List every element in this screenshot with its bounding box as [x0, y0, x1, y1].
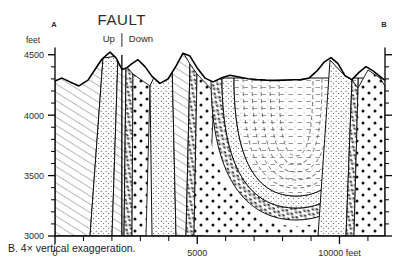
fault-up-label: Up	[103, 33, 115, 44]
cross-section-svg: 3000350040004500 0500010000 feet FAULT U…	[0, 0, 404, 264]
x-axis-tick-label: 10000 feet	[318, 248, 361, 258]
figure-caption: B. 4× vertical exaggeration.	[8, 242, 136, 254]
y-axis-tick-label: 3000	[24, 231, 44, 241]
cross-section-figure: 3000350040004500 0500010000 feet FAULT U…	[0, 0, 404, 264]
unit-conglomerate-left	[124, 66, 133, 236]
fault-label: FAULT	[98, 11, 147, 28]
y-axis-tick-label: 4000	[24, 111, 44, 121]
y-axis-unit-label: feet	[26, 35, 41, 45]
y-axis-tick-label: 3500	[24, 171, 44, 181]
x-axis-tick-label: 5000	[187, 248, 207, 258]
y-axis-tick-label: 4500	[24, 50, 44, 60]
fault-down-label: Down	[129, 33, 153, 44]
endpoint-label-a: A	[51, 20, 57, 29]
unit-gravel-right-flank	[354, 70, 385, 236]
endpoint-label-b: B	[381, 20, 387, 29]
